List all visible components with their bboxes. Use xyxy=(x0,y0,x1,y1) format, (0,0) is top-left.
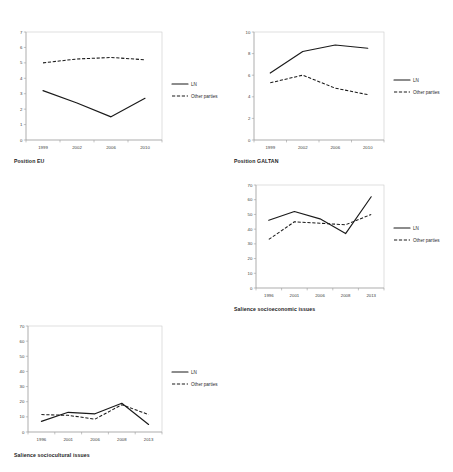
x-tick-label: 2006 xyxy=(90,437,100,442)
series-plot xyxy=(270,45,368,95)
chart-panel-position-eu: 01234567 1999200220062010 LNOther partie… xyxy=(4,22,228,154)
x-axis-ticks: 1999200220062010 xyxy=(26,140,162,150)
y-tick-label: 8 xyxy=(248,51,251,56)
y-tick-label: 10 xyxy=(246,30,251,35)
chart-salience-sociocultural: 010203040506070 19962001200620082013 LNO… xyxy=(4,316,228,446)
y-tick-label: 70 xyxy=(20,324,25,329)
legend-label-other-parties: Other parties xyxy=(413,238,440,243)
legend-label-other-parties: Other parties xyxy=(413,90,440,95)
x-axis-ticks: 19962001200620082013 xyxy=(256,288,384,298)
legend-label-ln: LN xyxy=(191,82,197,87)
y-tick-label: 30 xyxy=(248,241,253,246)
x-axis-ticks: 19962001200620082013 xyxy=(28,432,162,442)
y-tick-label: 20 xyxy=(20,399,25,404)
y-axis-ticks: 010203040506070 xyxy=(248,183,256,291)
series-line-1 xyxy=(41,403,148,424)
y-tick-label: 0 xyxy=(250,286,253,291)
series-plot xyxy=(41,403,148,424)
y-tick-label: 50 xyxy=(248,212,253,217)
y-tick-label: 3 xyxy=(20,91,23,96)
chart-salience-socioeconomic: 010203040506070 19962001200620082013 LNO… xyxy=(232,176,450,304)
y-tick-label: 60 xyxy=(20,339,25,344)
caption-position-galtan: Position GALTAN xyxy=(234,158,279,164)
y-axis-ticks: 010203040506070 xyxy=(20,324,28,435)
chart-legend: LNOther parties xyxy=(394,78,440,95)
y-tick-label: 50 xyxy=(20,354,25,359)
legend-label-ln: LN xyxy=(413,78,419,83)
x-tick-label: 1999 xyxy=(38,145,48,150)
chart-panel-salience-sociocultural: 010203040506070 19962001200620082013 LNO… xyxy=(4,316,228,446)
chart-frame xyxy=(26,32,162,140)
series-line-2 xyxy=(43,57,145,62)
series-line-2 xyxy=(270,75,368,94)
caption-salience-sociocultural: Salience sociocultural issues xyxy=(14,452,90,458)
y-tick-label: 6 xyxy=(20,45,23,50)
y-tick-label: 40 xyxy=(20,369,25,374)
y-tick-label: 60 xyxy=(248,197,253,202)
x-tick-label: 1996 xyxy=(264,293,274,298)
series-plot xyxy=(43,57,145,116)
y-tick-label: 4 xyxy=(20,76,23,81)
chart-position-eu: 01234567 1999200220062010 LNOther partie… xyxy=(4,22,228,154)
y-tick-label: 10 xyxy=(20,414,25,419)
legend-label-other-parties: Other parties xyxy=(191,94,218,99)
series-line-1 xyxy=(270,45,368,73)
y-tick-label: 70 xyxy=(248,183,253,188)
x-tick-label: 2008 xyxy=(341,293,351,298)
x-tick-label: 2001 xyxy=(63,437,73,442)
y-axis-ticks: 01234567 xyxy=(20,30,26,143)
y-tick-label: 5 xyxy=(20,60,23,65)
x-tick-label: 2006 xyxy=(330,145,340,150)
x-tick-label: 1996 xyxy=(37,437,47,442)
y-tick-label: 0 xyxy=(22,430,25,435)
y-tick-label: 30 xyxy=(20,384,25,389)
chart-frame xyxy=(28,326,162,432)
y-tick-label: 0 xyxy=(20,138,23,143)
y-axis-ticks: 0246810 xyxy=(246,30,254,143)
series-line-1 xyxy=(269,197,371,234)
plot-area-frame xyxy=(28,326,162,432)
caption-salience-socioeconomic: Salience socioeconomic issues xyxy=(234,306,315,312)
y-tick-label: 10 xyxy=(248,271,253,276)
x-tick-label: 2010 xyxy=(363,145,373,150)
y-tick-label: 1 xyxy=(20,122,23,127)
x-tick-label: 2002 xyxy=(72,145,82,150)
x-tick-label: 2013 xyxy=(144,437,154,442)
chart-svg-salience-sociocultural: 010203040506070 19962001200620082013 LNO… xyxy=(4,316,228,446)
x-tick-label: 2006 xyxy=(106,145,116,150)
chart-legend: LNOther parties xyxy=(172,82,218,99)
x-tick-label: 1999 xyxy=(265,145,275,150)
chart-svg-salience-socioeconomic: 010203040506070 19962001200620082013 LNO… xyxy=(232,176,450,304)
legend-label-ln: LN xyxy=(413,226,419,231)
x-tick-label: 2006 xyxy=(315,293,325,298)
chart-legend: LNOther parties xyxy=(172,370,218,387)
x-tick-label: 2002 xyxy=(298,145,308,150)
y-tick-label: 6 xyxy=(248,73,251,78)
chart-panel-salience-socioeconomic: 010203040506070 19962001200620082013 LNO… xyxy=(232,176,450,304)
y-tick-label: 7 xyxy=(20,30,23,35)
x-axis-ticks: 1999200220062010 xyxy=(254,140,384,150)
chart-svg-position-galtan: 0246810 1999200220062010 LNOther parties xyxy=(232,22,450,154)
chart-legend: LNOther parties xyxy=(394,226,440,243)
y-tick-label: 40 xyxy=(248,227,253,232)
x-tick-label: 2008 xyxy=(117,437,127,442)
y-tick-label: 2 xyxy=(20,107,23,112)
series-line-1 xyxy=(43,91,145,117)
y-tick-label: 20 xyxy=(248,256,253,261)
x-tick-label: 2001 xyxy=(290,293,300,298)
chart-position-galtan: 0246810 1999200220062010 LNOther parties xyxy=(232,22,450,154)
caption-position-eu: Position EU xyxy=(14,158,44,164)
y-tick-label: 4 xyxy=(248,94,251,99)
chart-frame xyxy=(256,185,384,288)
plot-area-frame xyxy=(256,185,384,288)
x-tick-label: 2013 xyxy=(366,293,376,298)
y-tick-label: 2 xyxy=(248,116,251,121)
plot-area-frame xyxy=(26,32,162,140)
y-tick-label: 0 xyxy=(248,138,251,143)
legend-label-ln: LN xyxy=(191,370,197,375)
legend-label-other-parties: Other parties xyxy=(191,382,218,387)
chart-svg-position-eu: 01234567 1999200220062010 LNOther partie… xyxy=(4,22,228,154)
series-plot xyxy=(269,197,371,240)
chart-panel-position-galtan: 0246810 1999200220062010 LNOther parties xyxy=(232,22,450,154)
x-tick-label: 2010 xyxy=(140,145,150,150)
